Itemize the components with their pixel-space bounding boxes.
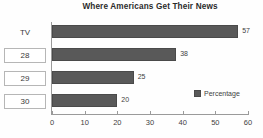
x-axis-tick-mark — [215, 111, 216, 114]
x-axis-tick-label: 40 — [178, 118, 186, 127]
x-axis-tick-label: 20 — [113, 118, 121, 127]
y-axis-label-row: 30 — [0, 91, 50, 111]
x-axis-tick-label: 50 — [211, 118, 219, 127]
bar-29 — [52, 71, 134, 84]
bar-value-28: 38 — [180, 50, 188, 57]
bar-row: 57 — [52, 22, 248, 42]
bar-28 — [52, 48, 176, 61]
x-axis-ticks: 0102030405060 — [52, 114, 248, 136]
x-axis-tick-label: 0 — [50, 118, 54, 127]
bar-value-tv: 57 — [242, 27, 250, 34]
y-axis-label-row: 29 — [0, 68, 50, 88]
x-axis-tick-label: 10 — [80, 118, 88, 127]
y-axis-label-30: 30 — [4, 94, 46, 109]
y-axis-label-row: TV — [0, 22, 50, 42]
plot-area: 57 38 25 20 Percentage — [52, 22, 248, 114]
y-axis-label-29: 29 — [4, 71, 46, 86]
bar-value-29: 25 — [138, 73, 146, 80]
bar-value-30: 20 — [121, 96, 129, 103]
y-axis-label-28: 28 — [4, 48, 46, 63]
bar-chart: Where Americans Get Their News TV 28 29 … — [0, 0, 263, 138]
x-axis-tick-label: 60 — [244, 118, 252, 127]
y-axis-label-row: 28 — [0, 45, 50, 65]
legend-label-percentage: Percentage — [204, 90, 240, 97]
x-axis-tick-mark — [248, 111, 249, 114]
bar-30 — [52, 94, 117, 107]
x-axis-tick-mark — [150, 111, 151, 114]
x-axis-tick-mark — [183, 111, 184, 114]
bar-row: 25 — [52, 68, 248, 88]
y-axis-category-labels: TV 28 29 30 — [0, 22, 50, 114]
legend: Percentage — [194, 90, 240, 97]
legend-swatch-percentage — [194, 90, 201, 97]
x-axis-tick-mark — [117, 111, 118, 114]
chart-title: Where Americans Get Their News — [52, 2, 248, 11]
bar-tv — [52, 25, 238, 38]
x-axis-tick-mark — [52, 111, 53, 114]
bar-row: 38 — [52, 45, 248, 65]
y-axis-label-tv: TV — [20, 26, 30, 39]
x-axis-tick-label: 30 — [146, 118, 154, 127]
x-axis-tick-mark — [85, 111, 86, 114]
